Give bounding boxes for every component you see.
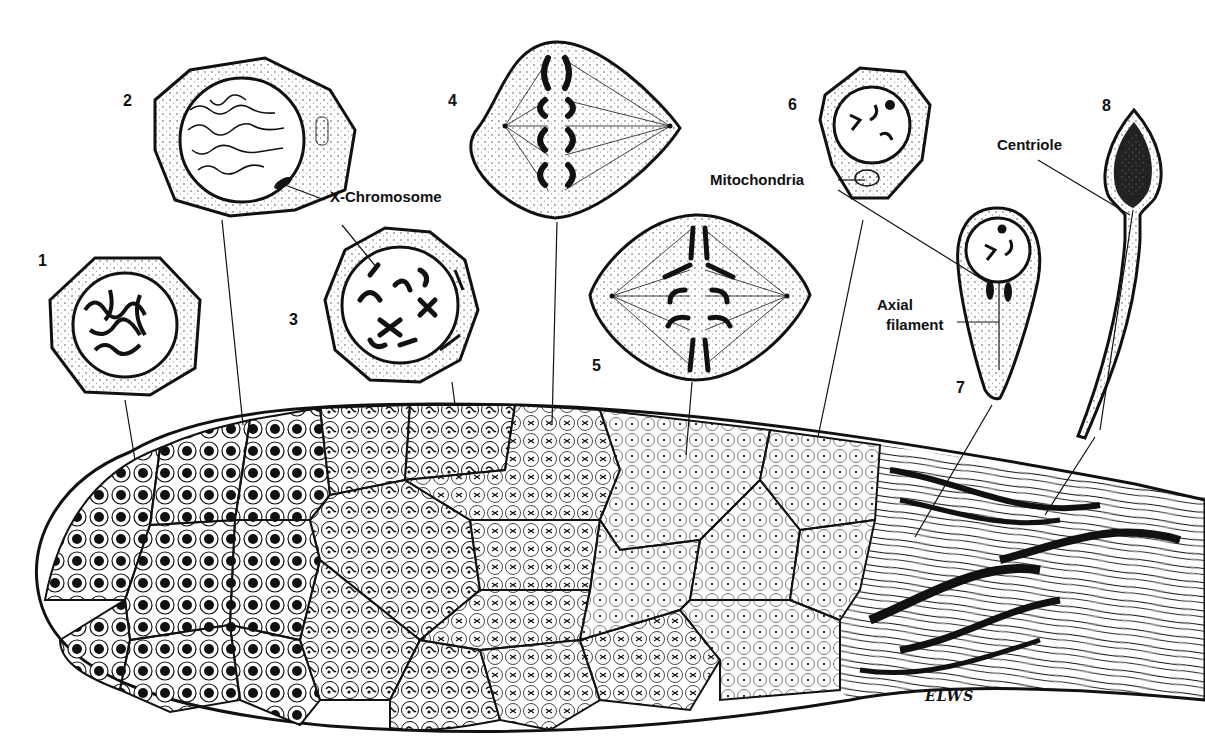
label-x-chromosome: X-Chromosome [330,189,442,204]
artist-signature: ELWS [925,688,974,704]
label-filament: filament [886,317,944,332]
label-mitochondria: Mitochondria [710,172,804,187]
stage-8-cell [1078,110,1161,438]
stage-number-1: 1 [38,253,47,269]
stage-5-cell [590,215,810,380]
spermatogenesis-diagram: 1 2 3 4 5 6 7 8 X-Chromosome Mitochondri… [0,0,1205,754]
stage-3-cell [325,228,478,382]
diagram-artwork [0,0,1205,754]
label-centriole: Centriole [997,137,1062,152]
stage-number-2: 2 [123,93,132,109]
tubule [37,404,1205,732]
stage-number-3: 3 [289,312,298,328]
stage-6-cell [820,68,930,198]
stage-2-cell [155,58,355,216]
label-axial: Axial [877,297,913,312]
stage-number-5: 5 [592,358,601,374]
stage-number-6: 6 [788,97,797,113]
stage-number-7: 7 [956,380,965,396]
stage-1-cell [50,258,200,395]
stage-number-8: 8 [1102,98,1111,114]
stage-7-cell [958,208,1040,399]
stage-number-4: 4 [448,93,457,109]
stage-4-cell [471,42,680,218]
